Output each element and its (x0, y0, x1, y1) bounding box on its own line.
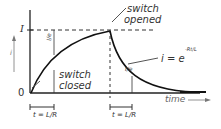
origin-label: 0 (18, 88, 24, 98)
decay-equation: i = e (161, 54, 185, 64)
switch-closed-line1: switch (59, 70, 91, 80)
rise-fraction-label: I/e (46, 33, 52, 40)
decay-fraction-label: I/e (125, 66, 132, 72)
switch-opened-line1: switch (127, 4, 159, 14)
switch-closed-line2: closed (59, 81, 91, 91)
equation-pointer (128, 58, 158, 64)
max-current-label: I (20, 24, 24, 34)
rl-circuit-current-diagram (0, 0, 221, 129)
switch-opened-line2: opened (124, 15, 161, 25)
time-constant-label-2: t = L/R (112, 112, 136, 119)
y-axis-label: i (10, 50, 12, 57)
x-axis-label: time (165, 95, 185, 104)
time-constant-label-1: t = L/R (33, 112, 57, 119)
decay-exponent: -Rt/L (185, 47, 197, 52)
